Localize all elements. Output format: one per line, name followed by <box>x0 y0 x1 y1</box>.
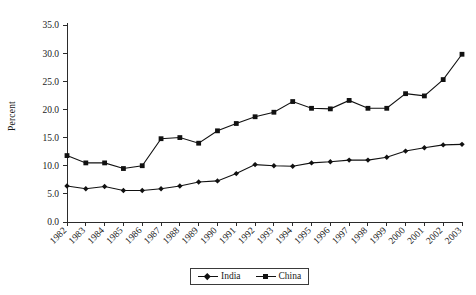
x-tick-label: 2003 <box>443 225 464 246</box>
data-point <box>140 163 145 168</box>
x-tick-label: 1992 <box>236 225 257 246</box>
x-tick-label: 1996 <box>311 225 332 246</box>
data-point <box>196 141 201 146</box>
data-point <box>234 121 239 126</box>
y-tick-label: 20.0 <box>42 105 59 115</box>
data-point <box>403 91 408 96</box>
data-point <box>384 106 389 111</box>
data-point <box>252 162 257 167</box>
data-point <box>272 110 277 115</box>
data-point <box>196 179 201 184</box>
data-point <box>271 163 276 168</box>
y-tick-label: 0.0 <box>47 217 59 227</box>
data-point <box>158 186 163 191</box>
x-tick-label: 1994 <box>274 225 295 246</box>
diamond-marker-icon <box>198 272 218 281</box>
y-tick-label: 10.0 <box>42 161 59 171</box>
data-point <box>64 183 69 188</box>
x-tick-label: 1984 <box>86 225 107 246</box>
data-point <box>366 106 371 111</box>
data-point <box>347 98 352 103</box>
x-tick-label: 1987 <box>142 225 163 246</box>
x-tick-label: 1998 <box>349 225 370 246</box>
data-point <box>422 94 427 99</box>
x-tick-label: 2002 <box>424 225 445 246</box>
x-tick-label: 1990 <box>198 225 219 246</box>
data-point <box>121 188 126 193</box>
data-point <box>177 183 182 188</box>
data-point <box>309 106 314 111</box>
x-tick-label: 1988 <box>161 225 182 246</box>
series-line-china <box>67 54 462 168</box>
data-point <box>215 128 220 133</box>
data-point <box>65 153 70 158</box>
data-point <box>234 171 239 176</box>
chart-container: Percent 0.05.010.015.020.025.030.035.019… <box>0 0 476 295</box>
data-point <box>177 135 182 140</box>
y-tick-label: 15.0 <box>42 133 59 143</box>
data-point <box>441 77 446 82</box>
data-point <box>290 164 295 169</box>
x-tick-label: 1983 <box>67 225 88 246</box>
data-point <box>328 159 333 164</box>
data-point <box>159 136 164 141</box>
x-tick-label: 1982 <box>48 225 69 246</box>
data-point <box>384 155 389 160</box>
x-tick-label: 2001 <box>405 225 426 246</box>
data-point <box>102 184 107 189</box>
data-point <box>403 148 408 153</box>
data-point <box>459 142 464 147</box>
data-point <box>422 145 427 150</box>
legend-item-india[interactable]: India <box>198 271 241 282</box>
y-tick-label: 30.0 <box>42 49 59 59</box>
x-tick-label: 2000 <box>386 225 407 246</box>
x-tick-label: 1993 <box>255 225 276 246</box>
data-point <box>309 160 314 165</box>
x-tick-label: 1995 <box>292 225 313 246</box>
data-point <box>328 106 333 111</box>
y-tick-label: 35.0 <box>42 20 59 30</box>
chart-legend: India China <box>190 268 309 285</box>
data-point <box>440 142 445 147</box>
x-tick-label: 1991 <box>217 225 238 246</box>
legend-label-india: India <box>221 271 241 282</box>
data-point <box>102 161 107 166</box>
y-tick-label: 25.0 <box>42 77 59 87</box>
x-tick-label: 1986 <box>123 225 144 246</box>
data-point <box>140 188 145 193</box>
x-tick-label: 1985 <box>104 225 125 246</box>
data-point <box>215 178 220 183</box>
line-chart-plot: 0.05.010.015.020.025.030.035.01982198319… <box>0 0 476 295</box>
data-point <box>290 99 295 104</box>
x-tick-label: 1989 <box>180 225 201 246</box>
legend-label-china: China <box>279 271 302 282</box>
data-point <box>83 161 88 166</box>
legend-item-china[interactable]: China <box>256 271 302 282</box>
data-point <box>365 157 370 162</box>
data-point <box>121 166 126 171</box>
y-tick-label: 5.0 <box>47 189 59 199</box>
square-marker-icon <box>256 272 276 281</box>
x-tick-label: 1997 <box>330 225 351 246</box>
x-tick-label: 1999 <box>368 225 389 246</box>
series-china <box>65 52 465 171</box>
data-point <box>83 186 88 191</box>
data-point <box>460 52 465 57</box>
data-point <box>346 157 351 162</box>
series-line-india <box>67 144 462 190</box>
data-point <box>253 114 258 119</box>
